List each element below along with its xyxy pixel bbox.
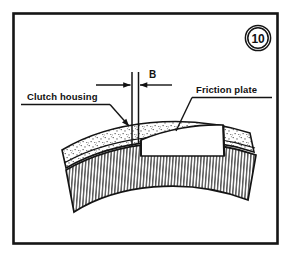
badge-number: 10 (252, 32, 265, 46)
friction-plate-label: Friction plate (196, 84, 257, 95)
dimension-b-label: B (149, 69, 156, 80)
plate-right-face (224, 125, 225, 156)
figure-canvas: B Clutch housing Friction plate 10 (0, 0, 289, 258)
technical-figure: B Clutch housing Friction plate 10 (0, 0, 289, 258)
clutch-housing-label: Clutch housing (27, 91, 98, 102)
figure-number-badge: 10 (245, 25, 270, 50)
